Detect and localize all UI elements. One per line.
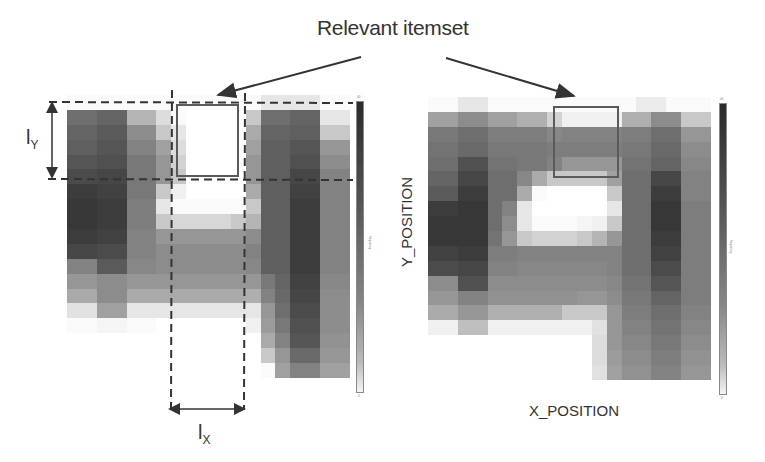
heatmap-cell: [547, 261, 562, 276]
heatmap-cell: [696, 261, 711, 276]
heatmap-cell: [97, 363, 112, 378]
heatmap-cell: [231, 214, 246, 229]
heatmap-cell: [666, 380, 681, 395]
heatmap-cell: [246, 184, 261, 199]
heatmap-cell: [696, 186, 711, 201]
heatmap-cell: [141, 155, 156, 170]
heatmap-cell: [246, 318, 261, 333]
heatmap-cell: [666, 142, 681, 157]
heatmap-cell: [156, 378, 171, 393]
heatmap-cell: [517, 350, 532, 365]
y-axis-label: Y_POSITION: [398, 177, 415, 267]
heatmap-cell: [458, 216, 473, 231]
heatmap-cell: [97, 303, 112, 318]
heatmap-cell: [622, 201, 637, 216]
heatmap-cell: [320, 348, 335, 363]
heatmap-cell: [488, 291, 503, 306]
heatmap-cell: [335, 125, 350, 140]
heatmap-cell: [127, 318, 142, 333]
heatmap-cell: [67, 274, 82, 289]
heatmap-cell: [666, 171, 681, 186]
heatmap-cell: [443, 142, 458, 157]
heatmap-cell: [246, 348, 261, 363]
heatmap-cell: [696, 350, 711, 365]
heatmap-cell: [290, 363, 305, 378]
heatmap-cell: [458, 157, 473, 172]
heatmap-cell: [592, 291, 607, 306]
heatmap-cell: [97, 289, 112, 304]
heatmap-cell: [517, 186, 532, 201]
heatmap-cell: [651, 305, 666, 320]
heatmap-cell: [502, 365, 517, 380]
heatmap-cell: [681, 127, 696, 142]
right-colorbar-label: frequency: [729, 240, 733, 253]
heatmap-cell: [681, 186, 696, 201]
heatmap-cell: [82, 140, 97, 155]
heatmap-cell: [502, 201, 517, 216]
relevant-itemset-title: Relevant itemset: [317, 16, 469, 40]
heatmap-cell: [216, 259, 231, 274]
heatmap-cell: [290, 214, 305, 229]
heatmap-cell: [127, 259, 142, 274]
heatmap-cell: [97, 110, 112, 125]
heatmap-cell: [335, 259, 350, 274]
heatmap-cell: [562, 335, 577, 350]
heatmap-cell: [636, 216, 651, 231]
heatmap-cell: [502, 291, 517, 306]
heatmap-cell: [681, 157, 696, 172]
heatmap-cell: [112, 229, 127, 244]
heatmap-cell: [607, 216, 622, 231]
heatmap-cell: [592, 216, 607, 231]
heatmap-cell: [517, 127, 532, 142]
heatmap-cell: [186, 199, 201, 214]
heatmap-cell: [681, 171, 696, 186]
heatmap-cell: [305, 303, 320, 318]
heatmap-cell: [607, 365, 622, 380]
heatmap-cell: [547, 276, 562, 291]
heatmap-cell: [473, 291, 488, 306]
heatmap-cell: [636, 186, 651, 201]
heatmap-cell: [577, 246, 592, 261]
heatmap-cell: [305, 199, 320, 214]
heatmap-cell: [547, 305, 562, 320]
heatmap-cell: [681, 97, 696, 112]
heatmap-cell: [592, 320, 607, 335]
heatmap-cell: [622, 291, 637, 306]
heatmap-cell: [320, 318, 335, 333]
heatmap-cell: [458, 142, 473, 157]
heatmap-cell: [97, 348, 112, 363]
heatmap-cell: [275, 363, 290, 378]
heatmap-cell: [67, 378, 82, 393]
heatmap-cell: [547, 380, 562, 395]
heatmap-cell: [216, 244, 231, 259]
heatmap-cell: [666, 112, 681, 127]
heatmap-cell: [443, 216, 458, 231]
heatmap-cell: [502, 171, 517, 186]
arrow-to-left-itemset: [218, 57, 361, 95]
heatmap-cell: [112, 169, 127, 184]
heatmap-cell: [335, 110, 350, 125]
heatmap-cell: [577, 291, 592, 306]
heatmap-cell: [473, 186, 488, 201]
heatmap-cell: [562, 231, 577, 246]
heatmap-cell: [231, 348, 246, 363]
heatmap-cell: [186, 348, 201, 363]
heatmap-cell: [473, 112, 488, 127]
heatmap-cell: [666, 127, 681, 142]
heatmap-cell: [562, 291, 577, 306]
heatmap-cell: [112, 318, 127, 333]
heatmap-cell: [607, 246, 622, 261]
heatmap-cell: [261, 125, 276, 140]
heatmap-cell: [607, 291, 622, 306]
heatmap-cell: [67, 169, 82, 184]
ly-label: lY: [26, 126, 38, 152]
heatmap-cell: [532, 97, 547, 112]
heatmap-cell: [290, 274, 305, 289]
heatmap-cell: [681, 320, 696, 335]
heatmap-cell: [141, 348, 156, 363]
heatmap-cell: [231, 303, 246, 318]
heatmap-cell: [458, 320, 473, 335]
heatmap-cell: [156, 274, 171, 289]
heatmap-cell: [502, 231, 517, 246]
heatmap-cell: [201, 363, 216, 378]
